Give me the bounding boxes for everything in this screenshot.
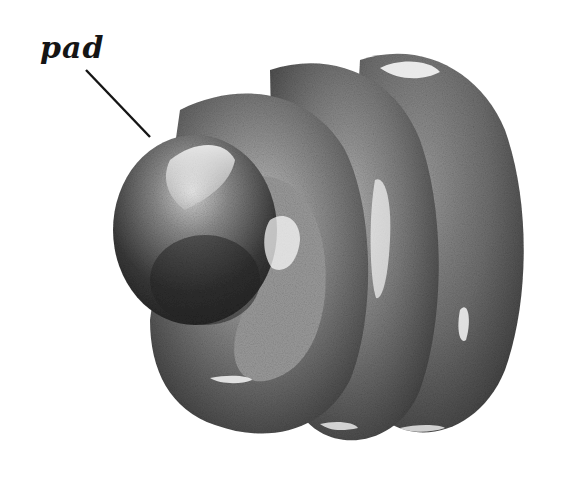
illustration-canvas: pad — [0, 0, 566, 489]
pad-shadow — [150, 235, 260, 325]
pad-label: pad — [40, 30, 104, 65]
drawing-body — [113, 54, 524, 440]
coiled-structure-drawing — [0, 0, 566, 489]
label-leader-line — [86, 70, 150, 137]
